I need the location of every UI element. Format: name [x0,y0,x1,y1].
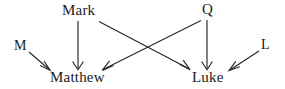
diagram-edges-layer [0,0,285,89]
node-label-luke: Luke [192,70,224,85]
edge-l-to-luke [229,51,259,71]
node-label-m: M [14,39,27,53]
edge-q-to-luke [202,20,213,70]
edge-m-to-matthew [29,52,50,70]
node-label-l: L [261,38,270,52]
edge-mark-to-luke [99,22,190,70]
two-source-hypothesis-diagram: Mark Q M L Matthew Luke [0,0,285,89]
node-label-q: Q [202,2,213,17]
edge-q-to-matthew [102,21,201,71]
node-label-matthew: Matthew [50,70,105,85]
edge-mark-to-matthew [73,21,84,70]
node-label-mark: Mark [62,3,95,18]
